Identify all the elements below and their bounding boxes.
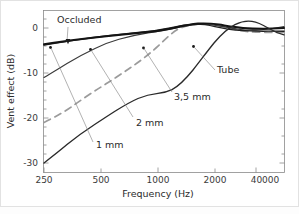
y-tick-label-minus10: -10: [23, 68, 38, 78]
x-axis-title: Frequency (Hz): [122, 188, 194, 199]
x-tick-label-4000: 40000: [251, 175, 280, 185]
x-tick-label-500: 500: [92, 175, 109, 185]
series-label-3-5mm: 3,5 mm: [174, 91, 211, 102]
x-tick-label-250: 250: [35, 175, 52, 185]
y-axis-title: Vent effect (dB): [5, 54, 16, 129]
y-tick-label-minus20: -20: [23, 113, 38, 123]
series-label-tube: Tube: [216, 64, 239, 75]
x-tick-label-1000: 1000: [147, 175, 170, 185]
series-label-1mm: 1 mm: [96, 139, 124, 150]
vent-effect-chart-figure: 0 -10 -20 -30 250 500 1000 2000 40000 Fr…: [0, 0, 299, 214]
x-tick-label-2000: 2000: [204, 175, 227, 185]
chart-canvas: 0 -10 -20 -30 250 500 1000 2000 40000 Fr…: [0, 0, 299, 214]
y-tick-label-minus30: -30: [23, 158, 38, 168]
series-label-2mm: 2 mm: [136, 117, 164, 128]
y-tick-label-0: 0: [32, 23, 38, 33]
series-label-occluded: Occluded: [57, 14, 102, 25]
